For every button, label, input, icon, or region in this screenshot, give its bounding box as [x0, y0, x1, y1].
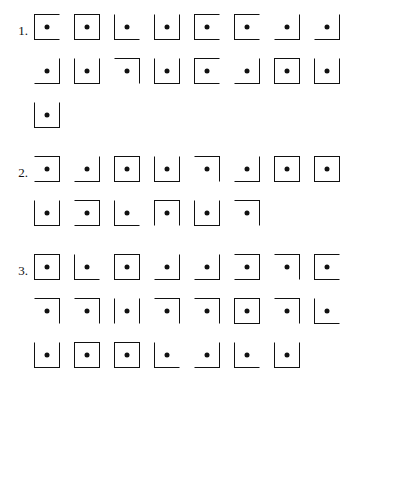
square-frame-symbol [34, 298, 60, 324]
center-dot-icon [85, 353, 90, 358]
row-items [34, 254, 354, 280]
square-frame-symbol [274, 156, 300, 182]
center-dot-icon [45, 113, 50, 118]
center-dot-icon [85, 265, 90, 270]
center-dot-icon [205, 69, 210, 74]
center-dot-icon [125, 167, 130, 172]
symbol-group: 1.1.1. [0, 14, 414, 136]
center-dot-icon [205, 25, 210, 30]
center-dot-icon [165, 265, 170, 270]
square-frame-symbol [274, 254, 300, 280]
square-frame-symbol [114, 298, 140, 324]
square-frame-symbol [34, 102, 60, 128]
center-dot-icon [45, 353, 50, 358]
square-frame-symbol [274, 342, 300, 368]
center-dot-icon [205, 211, 210, 216]
row-items [34, 342, 314, 368]
square-frame-symbol [34, 156, 60, 182]
center-dot-icon [165, 167, 170, 172]
center-dot-icon [205, 265, 210, 270]
group-number-placeholder: 1. [0, 102, 34, 136]
row-items [34, 58, 354, 84]
center-dot-icon [245, 69, 250, 74]
center-dot-icon [285, 69, 290, 74]
square-frame-symbol [114, 58, 140, 84]
square-frame-symbol [74, 342, 100, 368]
center-dot-icon [205, 309, 210, 314]
square-frame-symbol [234, 342, 260, 368]
square-frame-symbol [234, 200, 260, 226]
center-dot-icon [165, 25, 170, 30]
symbol-group: 2.2. [0, 156, 414, 234]
square-frame-symbol [274, 58, 300, 84]
square-frame-symbol [74, 298, 100, 324]
center-dot-icon [125, 211, 130, 216]
group-number-placeholder: 3. [0, 342, 34, 376]
center-dot-icon [85, 211, 90, 216]
symbol-row: 3. [0, 298, 414, 332]
center-dot-icon [325, 265, 330, 270]
symbol-row: 2. [0, 200, 414, 234]
row-spacer [0, 92, 414, 102]
symbol-row: 1. [0, 14, 414, 48]
center-dot-icon [165, 211, 170, 216]
row-items [34, 14, 354, 40]
worksheet-sheet: 1.1.1.2.2.3.3.3. [0, 0, 414, 486]
group-number: 3. [0, 254, 34, 288]
row-items [34, 102, 74, 128]
center-dot-icon [325, 25, 330, 30]
square-frame-symbol [74, 58, 100, 84]
center-dot-icon [245, 265, 250, 270]
center-dot-icon [325, 167, 330, 172]
group-number: 2. [0, 156, 34, 190]
square-frame-symbol [34, 58, 60, 84]
center-dot-icon [285, 25, 290, 30]
square-frame-symbol [74, 200, 100, 226]
row-spacer [0, 48, 414, 58]
group-gap [0, 234, 414, 254]
square-frame-symbol [114, 254, 140, 280]
square-frame-symbol [114, 342, 140, 368]
center-dot-icon [85, 309, 90, 314]
center-dot-icon [245, 309, 250, 314]
center-dot-icon [165, 353, 170, 358]
square-frame-symbol [34, 342, 60, 368]
square-frame-symbol [274, 14, 300, 40]
square-frame-symbol [74, 14, 100, 40]
square-frame-symbol [274, 298, 300, 324]
square-frame-symbol [194, 342, 220, 368]
square-frame-symbol [194, 58, 220, 84]
center-dot-icon [45, 167, 50, 172]
square-frame-symbol [114, 14, 140, 40]
center-dot-icon [205, 353, 210, 358]
square-frame-symbol [194, 254, 220, 280]
symbol-group: 3.3.3. [0, 254, 414, 376]
center-dot-icon [45, 265, 50, 270]
row-items [34, 156, 354, 182]
center-dot-icon [205, 167, 210, 172]
group-number-placeholder: 1. [0, 58, 34, 92]
square-frame-symbol [114, 200, 140, 226]
center-dot-icon [285, 167, 290, 172]
row-items [34, 200, 274, 226]
center-dot-icon [285, 265, 290, 270]
symbol-row: 3. [0, 342, 414, 376]
center-dot-icon [125, 265, 130, 270]
row-spacer [0, 288, 414, 298]
square-frame-symbol [114, 156, 140, 182]
square-frame-symbol [34, 200, 60, 226]
square-frame-symbol [234, 254, 260, 280]
symbol-row: 1. [0, 58, 414, 92]
center-dot-icon [285, 353, 290, 358]
symbol-row: 1. [0, 102, 414, 136]
group-number-placeholder: 2. [0, 200, 34, 234]
center-dot-icon [45, 69, 50, 74]
row-spacer [0, 190, 414, 200]
square-frame-symbol [234, 298, 260, 324]
group-number-placeholder: 3. [0, 298, 34, 332]
top-spacer [0, 0, 414, 14]
group-gap [0, 136, 414, 156]
square-frame-symbol [234, 58, 260, 84]
center-dot-icon [245, 167, 250, 172]
center-dot-icon [325, 309, 330, 314]
